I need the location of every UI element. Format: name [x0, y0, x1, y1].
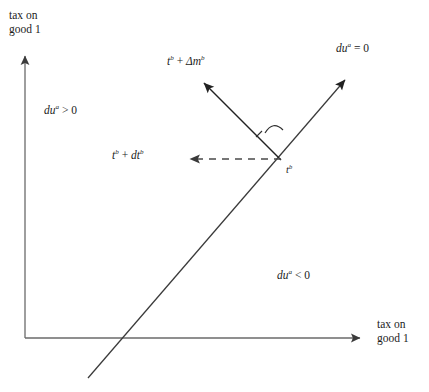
lump-sum-transfer-label: tb + Δmb: [167, 54, 205, 68]
du-positive-value: 0: [71, 104, 77, 116]
lump-sum-operator: +: [174, 55, 186, 67]
diagram-vector-layer: [0, 0, 429, 392]
y-axis-title: tax on good 1: [9, 8, 41, 36]
diagram-canvas: tax on good 1 tax on good 1 dua = 0 dua …: [0, 0, 429, 392]
du-positive-operator: >: [59, 104, 71, 116]
du-negative-symbol: du: [277, 269, 289, 281]
du-zero-locus-line: [88, 80, 345, 378]
tax-change-delta-superscript: b: [140, 148, 144, 156]
x-axis-title: tax on good 1: [377, 317, 409, 345]
du-positive-symbol: du: [44, 104, 56, 116]
du-negative-value: 0: [304, 269, 310, 281]
du-zero-operator: =: [351, 42, 363, 54]
du-zero-symbol: du: [336, 42, 348, 54]
du-zero-value: 0: [363, 42, 369, 54]
x-axis-title-line1: tax on: [377, 317, 409, 331]
lump-sum-delta-superscript: b: [201, 54, 205, 62]
tax-change-label: tb + dtb: [112, 148, 144, 162]
du-negative-operator: <: [292, 269, 304, 281]
point-tb-superscript: b: [289, 163, 292, 170]
tax-change-operator: +: [119, 149, 131, 161]
y-axis-title-line1: tax on: [9, 8, 41, 22]
region-label-du-positive: dua > 0: [44, 103, 77, 117]
x-axis-title-line2: good 1: [377, 331, 409, 345]
du-zero-locus-label: dua = 0: [336, 41, 369, 55]
right-angle-arc-icon: [265, 126, 283, 133]
tax-change-delta-symbol: dt: [131, 149, 140, 161]
lump-sum-transfer-arrow: [204, 83, 281, 160]
lump-sum-delta-symbol: Δm: [186, 55, 201, 67]
y-axis-title-line2: good 1: [9, 22, 41, 36]
point-label-tb: tb: [286, 164, 292, 177]
angle-tick-mark: [256, 131, 262, 137]
region-label-du-negative: dua < 0: [277, 268, 310, 282]
